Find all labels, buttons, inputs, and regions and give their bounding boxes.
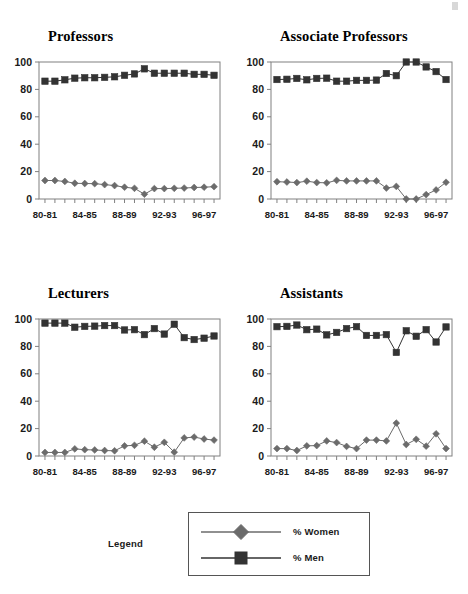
svg-text:84-85: 84-85 [73, 209, 98, 220]
legend-item-men: % Men [189, 545, 369, 571]
svg-text:60: 60 [20, 110, 32, 122]
svg-text:92-93: 92-93 [384, 466, 408, 477]
svg-text:88-89: 88-89 [344, 466, 368, 477]
svg-text:96-97: 96-97 [192, 209, 216, 220]
chart-panel-associate-professors: Associate Professors 02040608010080-8184… [238, 26, 463, 276]
svg-text:20: 20 [20, 422, 32, 434]
svg-text:80-81: 80-81 [265, 466, 290, 477]
plot-area-professors: 02040608010080-8184-8588-8992-9396-97 [6, 48, 231, 258]
page-corner-mark [452, 2, 458, 10]
svg-text:100: 100 [14, 313, 32, 325]
figure-legend: Legend % Women % Men [108, 510, 368, 578]
chart-svg-assistants: 02040608010080-8184-8588-8992-9396-97 [238, 305, 463, 515]
svg-text:96-97: 96-97 [424, 209, 448, 220]
legend-item-women-label: % Women [293, 526, 340, 537]
chart-panel-assistants: Assistants 02040608010080-8184-8588-8992… [238, 283, 463, 533]
svg-text:84-85: 84-85 [73, 466, 98, 477]
svg-text:40: 40 [20, 395, 32, 407]
figure-page: Professors 02040608010080-8184-8588-8992… [0, 0, 468, 594]
chart-title-professors: Professors [48, 26, 231, 48]
svg-text:100: 100 [14, 56, 32, 68]
svg-text:80: 80 [20, 340, 32, 352]
svg-text:84-85: 84-85 [305, 466, 330, 477]
svg-text:0: 0 [258, 193, 264, 205]
svg-text:96-97: 96-97 [192, 466, 216, 477]
svg-text:92-93: 92-93 [152, 209, 176, 220]
legend-box: % Women % Men [188, 512, 370, 576]
svg-text:80: 80 [252, 83, 264, 95]
svg-text:88-89: 88-89 [344, 209, 368, 220]
chart-title-assistants: Assistants [280, 283, 463, 305]
svg-text:84-85: 84-85 [305, 209, 330, 220]
svg-text:40: 40 [252, 138, 264, 150]
svg-text:60: 60 [20, 367, 32, 379]
svg-text:88-89: 88-89 [112, 209, 136, 220]
chart-panel-lecturers: Lecturers 02040608010080-8184-8588-8992-… [6, 283, 231, 533]
svg-text:100: 100 [246, 56, 264, 68]
svg-text:96-97: 96-97 [424, 466, 448, 477]
svg-text:100: 100 [246, 313, 264, 325]
chart-svg-associate-professors: 02040608010080-8184-8588-8992-9396-97 [238, 48, 463, 258]
svg-text:80: 80 [20, 83, 32, 95]
svg-text:88-89: 88-89 [112, 466, 136, 477]
legend-item-men-label: % Men [293, 552, 324, 563]
chart-title-associate-professors: Associate Professors [280, 26, 463, 48]
legend-title: Legend [108, 538, 143, 549]
svg-text:92-93: 92-93 [384, 209, 408, 220]
svg-text:80: 80 [252, 340, 264, 352]
svg-text:0: 0 [258, 450, 264, 462]
svg-text:40: 40 [252, 395, 264, 407]
diamond-marker-icon [197, 519, 285, 545]
svg-text:40: 40 [20, 138, 32, 150]
chart-panel-professors: Professors 02040608010080-8184-8588-8992… [6, 26, 231, 276]
svg-text:0: 0 [26, 193, 32, 205]
svg-text:80-81: 80-81 [33, 209, 58, 220]
chart-title-lecturers: Lecturers [48, 283, 231, 305]
svg-text:80-81: 80-81 [33, 466, 58, 477]
svg-text:92-93: 92-93 [152, 466, 176, 477]
plot-area-associate-professors: 02040608010080-8184-8588-8992-9396-97 [238, 48, 463, 258]
square-marker-icon [197, 545, 285, 571]
svg-text:20: 20 [252, 422, 264, 434]
plot-area-lecturers: 02040608010080-8184-8588-8992-9396-97 [6, 305, 231, 515]
svg-text:20: 20 [20, 165, 32, 177]
svg-text:20: 20 [252, 165, 264, 177]
plot-area-assistants: 02040608010080-8184-8588-8992-9396-97 [238, 305, 463, 515]
svg-text:60: 60 [252, 367, 264, 379]
svg-text:60: 60 [252, 110, 264, 122]
svg-text:0: 0 [26, 450, 32, 462]
legend-item-women: % Women [189, 519, 369, 545]
chart-svg-professors: 02040608010080-8184-8588-8992-9396-97 [6, 48, 231, 258]
svg-text:80-81: 80-81 [265, 209, 290, 220]
chart-svg-lecturers: 02040608010080-8184-8588-8992-9396-97 [6, 305, 231, 515]
